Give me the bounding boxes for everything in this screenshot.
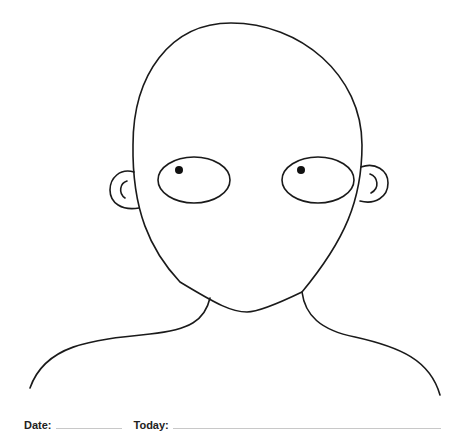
right-pupil: [297, 166, 305, 174]
head-outline: [133, 23, 362, 312]
left-ear-inner: [121, 181, 127, 198]
right-ear-inner: [370, 174, 377, 193]
left-eye: [158, 157, 230, 203]
right-shoulder: [302, 292, 440, 395]
today-field[interactable]: [173, 419, 441, 429]
left-shoulder: [30, 298, 210, 388]
today-label: Today:: [134, 419, 169, 431]
date-field[interactable]: [56, 419, 122, 429]
date-label: Date:: [24, 419, 52, 431]
left-pupil: [175, 166, 183, 174]
right-ear: [360, 165, 388, 202]
worksheet-footer: Date: Today:: [24, 419, 441, 431]
face-drawing: [0, 0, 462, 439]
right-eye: [282, 157, 354, 203]
